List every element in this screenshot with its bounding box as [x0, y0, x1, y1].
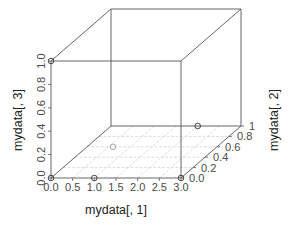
z-tick-label: 1.0 [35, 53, 47, 68]
z-tick-label: 0.2 [35, 147, 47, 162]
x-axis-title: mydata[, 1] [85, 203, 147, 217]
box-edge [181, 9, 241, 61]
grid-line-x [116, 126, 176, 178]
x-tick-label: 3.0 [173, 181, 188, 193]
z-tick-label: 0.4 [35, 124, 47, 139]
x-tick-label: 2.5 [152, 181, 167, 193]
z-tick-label: 0.0 [35, 170, 47, 185]
y-tick-label: 1 [249, 120, 255, 132]
y-axis-title: mydata[, 2] [267, 89, 281, 151]
box-edge [51, 9, 111, 61]
grid-line-x [138, 126, 198, 178]
z-tick-label: 0.6 [35, 100, 47, 115]
z-axis-title: mydata[, 3] [11, 89, 25, 151]
z-tick-label: 0.8 [35, 77, 47, 92]
x-tick-label: 1.5 [108, 181, 123, 193]
scatterplot-3d: 0.00.51.01.52.02.53.00.00.20.40.60.81.00… [0, 0, 294, 230]
box-edge [51, 126, 111, 178]
x-tick-label: 2.0 [130, 181, 145, 193]
y-tick-label: 0.0 [189, 172, 204, 184]
y-tick-label: 0.6 [225, 141, 240, 153]
x-tick-label: 1.0 [87, 181, 102, 193]
y-tick-label: 0.8 [237, 130, 252, 142]
x-tick-label: 0.5 [65, 181, 80, 193]
y-tick-label: 0.2 [201, 162, 216, 174]
y-tick-label: 0.4 [213, 151, 228, 163]
grid-line-x [94, 126, 154, 178]
